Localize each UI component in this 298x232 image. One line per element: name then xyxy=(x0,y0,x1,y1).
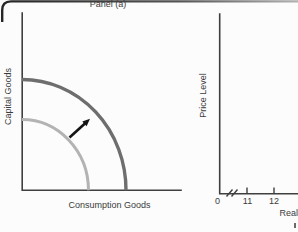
cutoff-text-fragment xyxy=(294,223,296,228)
panel-a-axes xyxy=(22,13,181,190)
panel-b-origin-label: 0 xyxy=(212,196,223,207)
panel-a-y-axis-label: Capital Goods xyxy=(3,57,14,137)
shift-arrow-shaft xyxy=(70,123,86,138)
panel-b-x-ticks xyxy=(247,187,274,193)
panel-b-axes xyxy=(220,14,298,194)
figure-screenshot: Panel (a) Capital Goods Consumption Good… xyxy=(0,0,298,232)
panel-a-title: Panel (a) xyxy=(22,0,194,10)
panel-b-x-axis-label-cropped: Real xyxy=(270,208,298,219)
panel-b-y-axis-label: Price Level xyxy=(198,66,209,126)
panel-b-tick-label-11: 11 xyxy=(240,196,255,207)
panel-b-tick-label-12: 12 xyxy=(266,196,282,207)
panel-a-x-axis-label: Consumption Goods xyxy=(22,200,197,211)
